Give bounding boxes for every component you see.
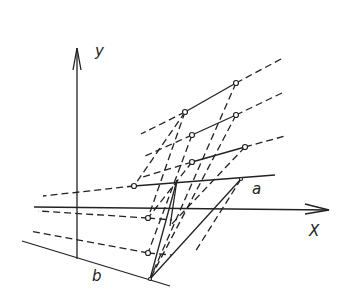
y-label: y (95, 42, 104, 60)
line-a-label: a (252, 180, 261, 198)
x-arrow-icon (305, 204, 329, 214)
x-label: X (309, 222, 319, 240)
diagram: y X a b (0, 0, 346, 306)
geometry-drawing (0, 0, 346, 306)
line-b-label: b (92, 267, 102, 285)
vertex-markers (132, 81, 248, 281)
